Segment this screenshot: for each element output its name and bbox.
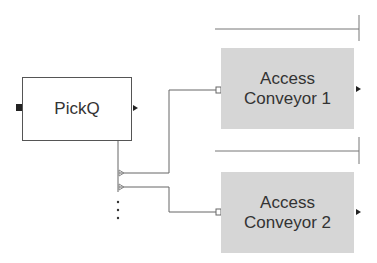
connector-to-conveyor1 [119,90,216,173]
conveyor1-label: Access Conveyor 1 [244,69,331,109]
pickq-block[interactable]: PickQ [22,77,132,141]
pickq-label: PickQ [54,99,99,119]
conveyor1-output-port[interactable] [356,86,361,92]
continuation-dot [117,217,119,219]
conveyor2-label: Access Conveyor 2 [244,193,331,233]
connector-to-conveyor2 [119,187,216,212]
continuation-dot [117,209,119,211]
conveyor2-output-port[interactable] [356,209,361,215]
access-conveyor-2-block[interactable]: Access Conveyor 2 [221,172,354,253]
pickq-output-port[interactable] [133,105,138,111]
continuation-dot [117,201,119,203]
access-conveyor-1-block[interactable]: Access Conveyor 1 [221,48,354,129]
